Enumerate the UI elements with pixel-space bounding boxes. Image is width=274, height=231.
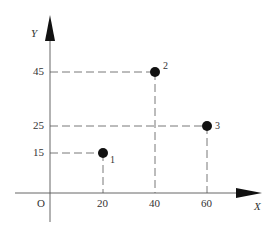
x-axis-arrow-icon xyxy=(236,188,262,198)
x-tick-20: 20 xyxy=(97,198,108,209)
y-axis-arrow-icon xyxy=(45,15,55,41)
point-2-label: 2 xyxy=(163,61,168,71)
x-tick-40: 40 xyxy=(149,198,160,209)
y-axis-label: Y xyxy=(31,28,37,39)
y-tick-15: 15 xyxy=(33,147,44,158)
projection-lines xyxy=(50,72,207,193)
point-1-label: 1 xyxy=(110,155,115,165)
x-axis-label: X xyxy=(254,201,261,212)
origin-label: O xyxy=(37,198,45,209)
point-3-label: 3 xyxy=(215,121,220,131)
point-1 xyxy=(98,148,108,158)
y-tick-25: 25 xyxy=(33,120,44,131)
point-2 xyxy=(150,67,160,77)
point-3 xyxy=(202,121,212,131)
y-tick-45: 45 xyxy=(33,66,44,77)
x-tick-60: 60 xyxy=(201,198,212,209)
